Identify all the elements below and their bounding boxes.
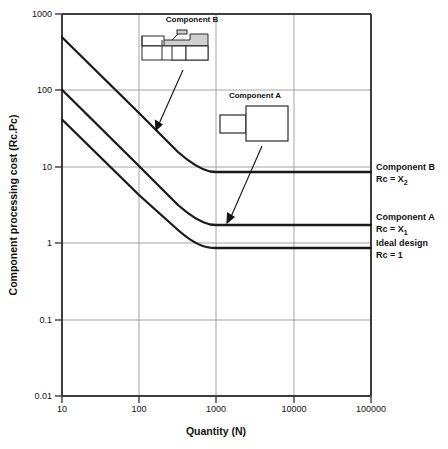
y-tick-label-1: 1 <box>47 238 52 248</box>
component-b-upper-body <box>162 34 208 46</box>
series-label-component-b-subscript: 2 <box>404 179 408 186</box>
series-label-component-b-rc: Rc = X <box>376 174 404 184</box>
y-tick-label-10: 10 <box>42 162 52 172</box>
component-b-inset-caption: Component B <box>166 15 219 24</box>
series-label-component-a-line1: Component A <box>376 212 435 222</box>
series-label-component-b-line2: Rc = X2 <box>376 174 408 186</box>
data-curves <box>62 37 371 248</box>
series-label-component-a: Component A Rc = X1 <box>376 212 435 236</box>
component-b-arrow-shaft <box>158 70 183 126</box>
x-tick-labels: 10 100 1000 10000 100000 <box>57 404 386 414</box>
series-label-component-a-line2: Rc = X1 <box>376 224 408 236</box>
x-tick-label-10: 10 <box>57 404 67 414</box>
component-b-inset: Component B <box>142 15 218 130</box>
grid-lines <box>62 14 371 396</box>
y-tick-label-1000: 1000 <box>32 9 52 19</box>
component-a-part-drawing <box>220 106 288 141</box>
component-b-arrow-head <box>156 121 163 131</box>
log-log-line-chart: 1000 100 10 1 0.1 0.01 10 100 1000 10000… <box>0 0 448 449</box>
x-tick-label-100000: 100000 <box>356 404 386 414</box>
x-tick-label-1000: 1000 <box>206 404 226 414</box>
component-a-arrow <box>227 146 262 223</box>
series-label-ideal-design-line1: Ideal design <box>376 238 428 248</box>
curve-component-a <box>62 90 371 225</box>
component-b-right-step <box>186 46 208 60</box>
y-tick-labels: 1000 100 10 1 0.1 0.01 <box>32 9 52 401</box>
curve-ideal-design <box>62 120 371 249</box>
tick-marks <box>55 14 371 403</box>
component-a-inset: Component A <box>220 91 288 223</box>
component-a-arrow-head <box>227 213 234 223</box>
series-label-component-b-line1: Component B <box>376 162 435 172</box>
x-tick-label-100: 100 <box>131 404 146 414</box>
series-label-component-a-subscript: 1 <box>404 229 408 236</box>
x-axis-title: Quantity (N) <box>186 425 246 437</box>
component-b-chamfer-line <box>172 34 178 40</box>
axis-lines <box>62 14 371 396</box>
y-tick-label-0.1: 0.1 <box>39 315 52 325</box>
y-tick-label-0.01: 0.01 <box>34 391 52 401</box>
x-tick-label-10000: 10000 <box>281 404 306 414</box>
chart-figure: 1000 100 10 1 0.1 0.01 10 100 1000 10000… <box>0 0 448 449</box>
y-tick-label-100: 100 <box>37 85 52 95</box>
series-label-component-a-rc: Rc = X <box>376 224 404 234</box>
curve-component-b <box>62 37 371 172</box>
component-a-inset-caption: Component A <box>229 91 281 100</box>
component-a-large-rect <box>246 106 288 141</box>
component-b-left-flange <box>142 36 164 46</box>
component-a-small-rect <box>220 115 246 133</box>
component-b-part-drawing <box>142 30 208 60</box>
y-axis-title: Component processing cost (Rc.Pc) <box>7 115 19 296</box>
component-b-mid-step <box>172 46 186 60</box>
component-a-arrow-shaft <box>230 146 262 219</box>
component-b-arrow <box>156 70 184 130</box>
series-label-ideal-design-line2: Rc = 1 <box>376 250 403 260</box>
component-b-top-notch <box>177 30 187 34</box>
series-label-ideal-design: Ideal design Rc = 1 <box>376 238 428 260</box>
series-label-component-b: Component B Rc = X2 <box>376 162 435 186</box>
